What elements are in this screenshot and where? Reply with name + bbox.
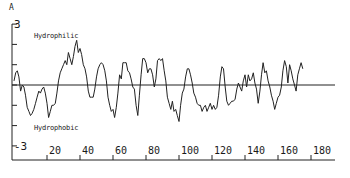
hydrophobic-label: Hydrophobic xyxy=(34,124,78,132)
x-tick-label: 40 xyxy=(82,145,94,156)
x-tick-label: 20 xyxy=(49,145,61,156)
y-tick-label-max: 3 xyxy=(14,18,21,31)
y-tick-label-min: -3 xyxy=(14,140,27,153)
x-tick-label: 160 xyxy=(280,145,298,156)
panel-label: A xyxy=(9,3,14,12)
x-tick-label: 120 xyxy=(214,145,232,156)
x-tick-label: 80 xyxy=(148,145,160,156)
x-tick-label: 100 xyxy=(181,145,199,156)
x-tick-label: 140 xyxy=(247,145,265,156)
hydrophilic-label: Hydrophilic xyxy=(34,32,78,40)
hydropathy-curve xyxy=(14,40,303,121)
x-tick-label: 60 xyxy=(115,145,127,156)
x-tick-label: 180 xyxy=(313,145,331,156)
